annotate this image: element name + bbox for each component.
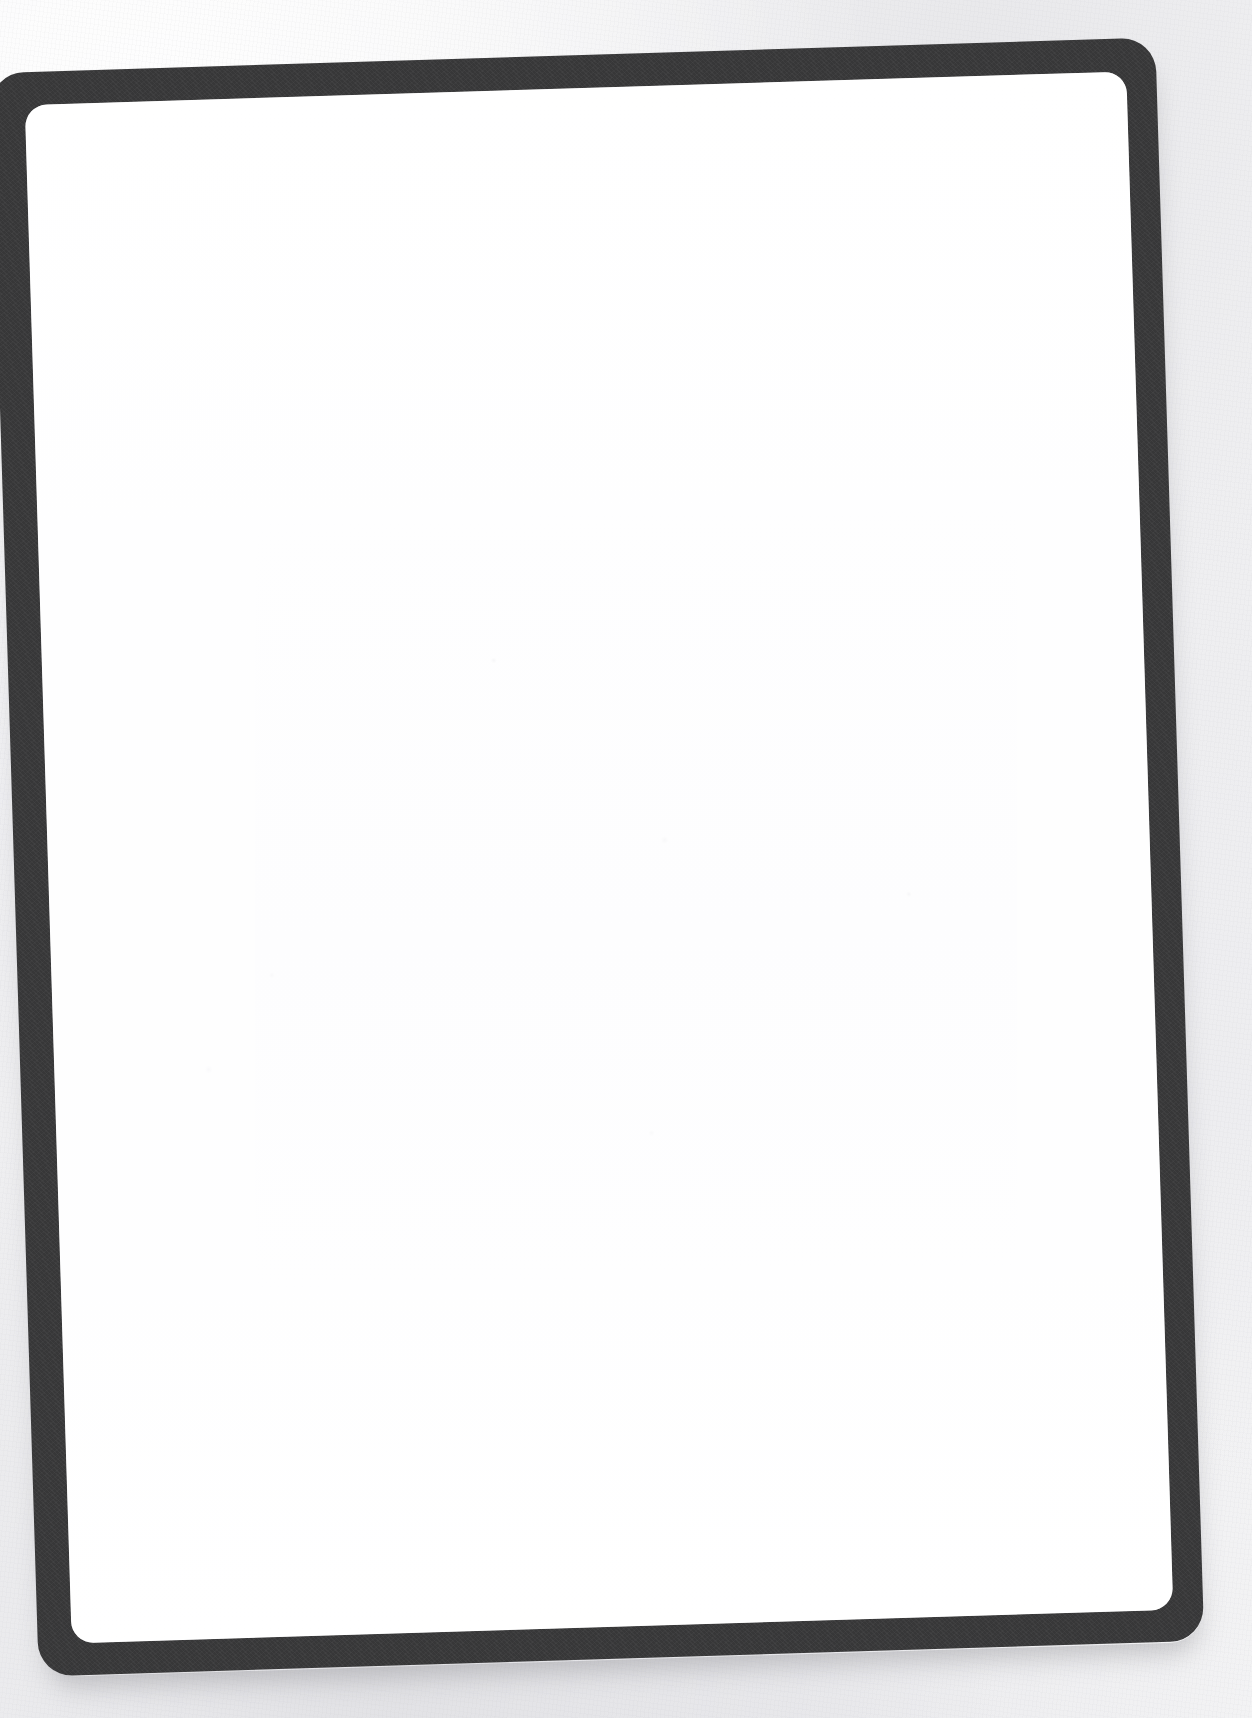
page-content-text <box>25 71 1126 105</box>
bordered-card <box>0 38 1204 1677</box>
content-speckle-layer <box>25 71 1173 1643</box>
content-area <box>25 71 1173 1643</box>
scanned-page: blank bordered card <box>0 0 1252 1718</box>
